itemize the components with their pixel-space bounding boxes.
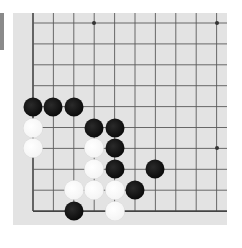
black-stone[interactable] bbox=[85, 118, 104, 137]
black-stone[interactable] bbox=[64, 97, 83, 116]
side-tab[interactable] bbox=[0, 13, 4, 50]
white-stone[interactable] bbox=[24, 139, 43, 158]
white-stone[interactable] bbox=[64, 181, 83, 200]
black-stone[interactable] bbox=[146, 160, 165, 179]
black-stone[interactable] bbox=[126, 181, 145, 200]
black-stone[interactable] bbox=[105, 139, 124, 158]
star-point bbox=[92, 21, 96, 25]
white-stone[interactable] bbox=[105, 181, 124, 200]
white-stone[interactable] bbox=[85, 181, 104, 200]
star-point bbox=[215, 21, 219, 25]
star-point bbox=[215, 146, 219, 150]
black-stone[interactable] bbox=[105, 160, 124, 179]
white-stone[interactable] bbox=[105, 202, 124, 221]
black-stone[interactable] bbox=[105, 118, 124, 137]
black-stone[interactable] bbox=[44, 97, 63, 116]
go-board[interactable] bbox=[13, 13, 227, 225]
black-stone[interactable] bbox=[64, 202, 83, 221]
white-stone[interactable] bbox=[24, 118, 43, 137]
black-stone[interactable] bbox=[24, 97, 43, 116]
white-stone[interactable] bbox=[85, 139, 104, 158]
white-stone[interactable] bbox=[85, 160, 104, 179]
